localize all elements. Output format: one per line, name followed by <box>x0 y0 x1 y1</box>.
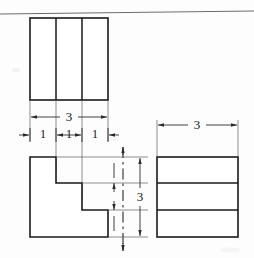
dimension-top-width-label: 3 <box>66 109 73 124</box>
dimension-segment-1: 1 <box>19 127 56 142</box>
dimension-segment-1-label: 1 <box>40 127 46 141</box>
dimension-side-width-label: 3 <box>194 117 201 132</box>
drawing-sheet: 3 1 1 1 <box>0 0 254 258</box>
technical-drawing-canvas: 3 1 1 1 <box>0 0 254 258</box>
dimension-top-width: 3 <box>31 109 107 124</box>
side-view-outline <box>157 157 238 237</box>
dimension-segment-2-label: 1 <box>92 127 98 141</box>
front-view <box>30 157 108 237</box>
dimension-vertical-height-label: 3 <box>137 189 144 204</box>
dimension-vertical-height: 3 <box>137 158 144 236</box>
dimension-segment-3-label: 1 <box>66 127 72 141</box>
right-side-view <box>157 157 238 237</box>
sheet-top-rule <box>0 11 254 14</box>
dimension-side-width: 3 <box>158 117 237 132</box>
dimension-segment-2: 1 <box>57 127 98 142</box>
top-view <box>30 18 108 100</box>
front-view-outline <box>30 157 108 237</box>
top-view-outline <box>30 18 108 100</box>
